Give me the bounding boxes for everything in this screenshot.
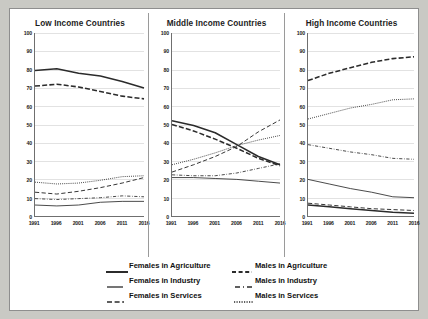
legend-line-swatch-icon [232, 292, 254, 300]
legend-label: Males in Agriculture [255, 261, 327, 270]
y-tick-label: 100 [161, 30, 169, 36]
legend-label: Males in Services [255, 291, 318, 300]
y-tick-label: 100 [24, 30, 32, 36]
series-line [172, 164, 280, 176]
series-svg-0 [35, 33, 144, 216]
y-tick-label: 20 [26, 177, 32, 183]
y-tick-label: 60 [299, 104, 305, 110]
legend-label: Females in Services [129, 291, 202, 300]
x-tick-label: 2006 [95, 220, 106, 226]
series-lines-low-income [35, 33, 144, 216]
y-tick-label: 10 [163, 196, 169, 202]
chart-screenshot: Low Income Countries 0102030405060708090… [0, 0, 428, 319]
legend-item-females-in-services[interactable]: Females in Services [106, 291, 202, 300]
plot-frame-low-income [34, 33, 144, 217]
series-line [35, 196, 144, 200]
panel-middle-income: Middle Income Countries 0102030405060708… [148, 13, 284, 257]
panel-low-income: Low Income Countries 0102030405060708090… [12, 13, 148, 257]
legend-line-swatch-icon [232, 262, 254, 270]
x-tick-label: 2001 [73, 220, 84, 226]
y-tick-label: 90 [26, 48, 32, 54]
panel-title-middle-income: Middle Income Countries [149, 19, 284, 28]
series-line [35, 178, 144, 194]
x-tick-label: 2011 [253, 220, 263, 226]
x-tick-label: 2001 [344, 220, 355, 226]
y-tick-label: 80 [299, 67, 305, 73]
y-tick-label: 40 [163, 140, 169, 146]
y-tick-label: 10 [299, 196, 305, 202]
y-tick-label: 100 [297, 30, 305, 36]
legend-row: Females in ServicesMales in Services [10, 291, 418, 306]
series-line [35, 176, 144, 184]
x-axis-labels-low-income: 199119962001200620112016 [34, 219, 144, 233]
legend-line-swatch-icon [232, 277, 254, 285]
x-tick-label: 1991 [166, 220, 177, 226]
series-lines-middle-income [172, 33, 280, 216]
series-svg-1 [172, 33, 280, 216]
plot-area-middle-income: 0102030405060708090100 19911996200120062… [149, 33, 284, 251]
series-line [172, 121, 280, 165]
panel-high-income: High Income Countries 010203040506070809… [284, 13, 418, 257]
y-tick-label: 50 [299, 122, 305, 128]
x-tick-label: 2006 [231, 220, 242, 226]
y-tick-label: 70 [299, 85, 305, 91]
x-tick-label: 1996 [51, 220, 62, 226]
series-line [172, 125, 280, 166]
legend-item-males-in-agriculture[interactable]: Males in Agriculture [232, 261, 327, 270]
legend-row: Females in AgricultureMales in Agricultu… [10, 261, 418, 276]
legend-item-males-in-services[interactable]: Males in Services [232, 291, 318, 300]
y-tick-label: 10 [26, 196, 32, 202]
y-tick-label: 50 [26, 122, 32, 128]
y-tick-label: 30 [299, 159, 305, 165]
series-lines-high-income [308, 33, 414, 216]
plot-area-high-income: 0102030405060708090100 19911996200120062… [285, 33, 418, 251]
y-tick-label: 30 [26, 159, 32, 165]
legend-label: Females in Industry [129, 276, 200, 285]
x-tick-label: 2016 [409, 220, 420, 226]
y-axis-labels-middle-income: 0102030405060708090100 [151, 33, 169, 217]
panels-container: Low Income Countries 0102030405060708090… [10, 9, 418, 257]
plot-frame-high-income [307, 33, 414, 217]
y-tick-label: 80 [163, 67, 169, 73]
legend-label: Females in Agriculture [129, 261, 211, 270]
legend-line-swatch-icon [106, 277, 128, 285]
series-line [308, 145, 414, 160]
x-tick-label: 2001 [209, 220, 220, 226]
series-line [172, 135, 280, 164]
series-line [35, 84, 144, 99]
legend-line-swatch-icon [106, 262, 128, 270]
y-axis-labels-high-income: 0102030405060708090100 [287, 33, 305, 217]
y-tick-label: 40 [26, 140, 32, 146]
y-tick-label: 50 [163, 122, 169, 128]
y-tick-label: 90 [163, 48, 169, 54]
y-tick-label: 70 [26, 85, 32, 91]
legend-item-females-in-agriculture[interactable]: Females in Agriculture [106, 261, 211, 270]
plot-frame-middle-income [171, 33, 280, 217]
y-tick-label: 40 [299, 140, 305, 146]
chart-legend: Females in AgricultureMales in Agricultu… [10, 259, 418, 311]
y-tick-label: 70 [163, 85, 169, 91]
x-tick-label: 1996 [323, 220, 334, 226]
legend-line-swatch-icon [106, 292, 128, 300]
legend-row: Females in IndustryMales in Industry [10, 276, 418, 291]
series-line [308, 205, 414, 213]
legend-item-males-in-industry[interactable]: Males in Industry [232, 276, 317, 285]
y-tick-label: 90 [299, 48, 305, 54]
series-line [172, 120, 280, 172]
series-line [172, 178, 280, 183]
x-tick-label: 2011 [387, 220, 397, 226]
chart-card: Low Income Countries 0102030405060708090… [9, 8, 419, 311]
x-tick-label: 1996 [187, 220, 198, 226]
series-line [308, 57, 414, 81]
x-axis-labels-middle-income: 199119962001200620112016 [171, 219, 280, 233]
x-tick-label: 2006 [366, 220, 377, 226]
plot-area-low-income: 0102030405060708090100 19911996200120062… [12, 33, 148, 251]
legend-label: Males in Industry [255, 276, 317, 285]
y-tick-label: 60 [26, 104, 32, 110]
y-tick-label: 20 [163, 177, 169, 183]
x-axis-labels-high-income: 199119962001200620112016 [307, 219, 414, 233]
series-svg-2 [308, 33, 414, 216]
legend-item-females-in-industry[interactable]: Females in Industry [106, 276, 200, 285]
y-tick-label: 60 [163, 104, 169, 110]
y-tick-label: 30 [163, 159, 169, 165]
